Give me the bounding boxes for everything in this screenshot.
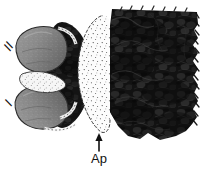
grey-lobe-upper <box>16 27 67 73</box>
figure-container: II I Ap <box>0 0 204 170</box>
anatomical-illustration: II I Ap <box>0 0 204 170</box>
label-ap: Ap <box>91 151 107 166</box>
